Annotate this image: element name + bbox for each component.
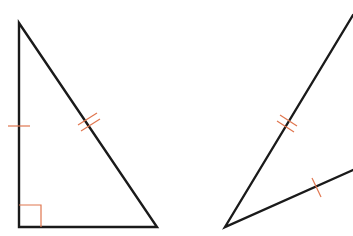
left-triangle-outline [19,23,157,227]
right-triangle [225,15,353,227]
geometry-diagram [0,0,353,236]
right-angle-marker [19,205,41,227]
left-triangle [8,23,157,227]
